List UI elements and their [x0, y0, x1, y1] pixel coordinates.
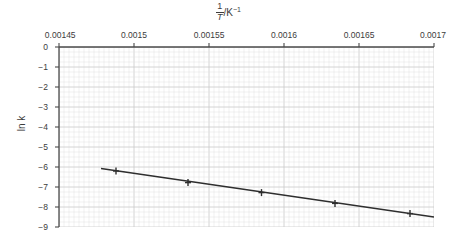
axis-lines [0, 0, 457, 237]
chart-figure: 1 T /K−1 0.001450.00150.001550.00160.001… [0, 0, 457, 237]
